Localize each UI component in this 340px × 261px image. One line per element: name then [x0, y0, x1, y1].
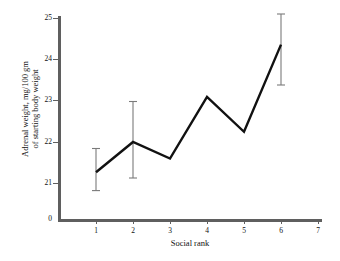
data-line-series: [96, 45, 281, 173]
error-bar-rank-2: [129, 102, 137, 179]
adrenal-weight-line-chart: 25 24 23 22 21 0 1 2 3 4 5 6 7 Social ra…: [0, 0, 340, 261]
data-overlay: [0, 0, 340, 261]
plot-area: 25 24 23 22 21 0 1 2 3 4 5 6 7 Social ra…: [0, 0, 340, 261]
